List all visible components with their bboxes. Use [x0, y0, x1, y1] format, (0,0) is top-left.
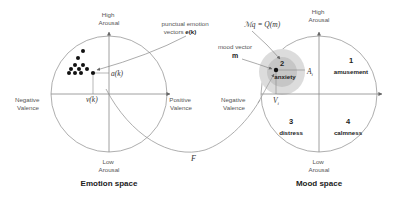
mood-vector-point [274, 68, 278, 72]
emotion-vectors-annotation: punctual emotion vectors e(k) [97, 20, 210, 70]
annotation-arrow [97, 36, 186, 70]
emotion-negative-valence-label: Negative Valence [15, 96, 41, 111]
mood-negative-valence-label: Negative Valence [221, 96, 247, 111]
mood-vector-label: mood vector [218, 43, 252, 50]
quadrant-1-number: 1 [349, 56, 353, 65]
emotion-space: High Arousal Low Arousal Negative Valenc… [15, 11, 193, 188]
quadrant-2-number: 2 [280, 59, 284, 68]
mood-valence-label: Vi [273, 96, 280, 106]
mapping-f-label: F [190, 154, 196, 163]
quadrant-4-number: 4 [346, 117, 351, 126]
emotion-mood-diagram: High Arousal Low Arousal Negative Valenc… [0, 0, 398, 198]
emotion-space-title: Emotion space [81, 179, 138, 188]
emotion-low-label: Low Arousal [99, 158, 120, 173]
svg-text:punctual emotion vectors: punctual emotion vectors e(k) [162, 20, 211, 35]
mood-vector-symbol: m [232, 52, 238, 59]
quadrant-1-name: amusement [334, 68, 368, 75]
mood-low-label: Low Arousal [309, 158, 330, 173]
mood-space: 2 anxiety 1 amusement 3 distress 4 calmn… [218, 8, 382, 188]
arousal-a-k-label: a(k) [111, 69, 124, 78]
valence-v-k-label: v(k) [86, 95, 98, 104]
mood-high-label: High Arousal [309, 8, 330, 23]
current-emotion-point [91, 71, 95, 75]
quadrant-3-number: 3 [289, 117, 293, 126]
quadrant-3-name: distress [279, 129, 303, 136]
emotion-high-label: High Arousal [99, 11, 120, 26]
emotion-vector-cluster [67, 49, 89, 75]
mood-formula: ℳq = Q(m) [244, 20, 281, 29]
quadrant-4-name: calmness [334, 129, 363, 136]
quadrant-2-name: anxiety [274, 73, 296, 80]
emotion-positive-valence-label: Positive Valence [169, 96, 192, 111]
mood-space-title: Mood space [296, 179, 343, 188]
mood-arousal-label: Ai [306, 67, 314, 77]
